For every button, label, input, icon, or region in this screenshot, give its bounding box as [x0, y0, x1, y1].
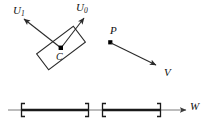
w-label: W [190, 101, 199, 112]
u0-label-subscript: 0 [84, 6, 88, 15]
projection-interval-2 [103, 104, 161, 117]
figure-canvas: U1 U0 C P V W [0, 0, 207, 128]
u1-axis-vector [24, 19, 61, 48]
box-center-point [59, 46, 63, 50]
c-label: C [56, 52, 63, 62]
u0-label: U0 [76, 2, 88, 15]
diagram-svg [0, 0, 207, 128]
p-label: P [110, 25, 117, 36]
u1-label-subscript: 1 [21, 9, 25, 18]
projection-interval-1 [22, 104, 89, 117]
v-label: V [164, 67, 171, 78]
u1-label: U1 [13, 5, 25, 18]
u0-label-base: U [76, 1, 84, 13]
v-velocity-vector [111, 43, 156, 65]
u1-label-base: U [13, 4, 21, 16]
